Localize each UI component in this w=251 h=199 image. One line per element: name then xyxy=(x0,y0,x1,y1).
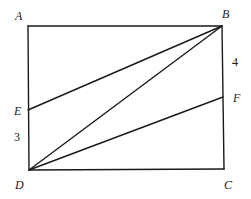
point-label-c: C xyxy=(224,178,233,192)
point-label-e: E xyxy=(13,104,22,118)
length-label-bf: 4 xyxy=(232,55,238,69)
geometry-diagram: A B C D E F 4 3 xyxy=(0,0,251,199)
segment-df xyxy=(29,97,223,170)
segment-bd xyxy=(29,26,222,170)
point-label-b: B xyxy=(222,7,230,21)
segment-be xyxy=(28,26,222,110)
point-label-a: A xyxy=(14,9,23,23)
point-label-f: F xyxy=(232,91,241,105)
point-label-d: D xyxy=(14,178,24,192)
segment-cd xyxy=(29,169,224,170)
length-label-ed: 3 xyxy=(14,130,20,144)
segment-da xyxy=(28,26,29,170)
